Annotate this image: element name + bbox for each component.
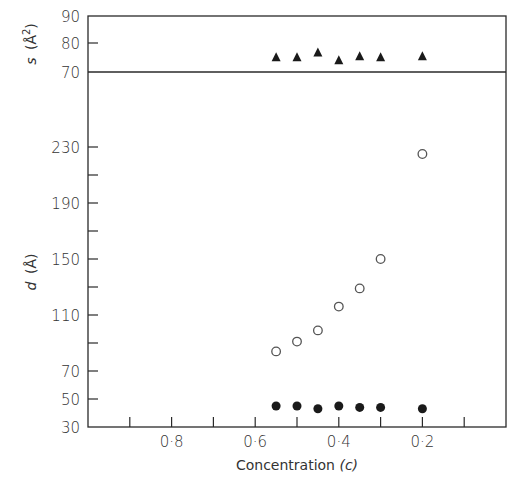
top-ylabel-var: s	[23, 58, 39, 65]
filled-circle-point	[355, 403, 364, 412]
open-circle-point	[293, 337, 302, 346]
open-circle-point	[376, 255, 385, 264]
bottom-tick-150: 150	[51, 251, 80, 269]
svg-text:d (Å): d (Å)	[23, 254, 39, 291]
plot-frame	[88, 16, 506, 427]
triangle-point	[293, 52, 302, 61]
bottom-tick-50: 50	[61, 391, 80, 409]
filled-circle-point	[418, 404, 427, 413]
top-y-axis-title: s (Å2)	[21, 23, 39, 65]
series-open-circles	[272, 150, 427, 356]
filled-circle-point	[293, 402, 302, 411]
x-axis-title: Concentration (c)	[236, 457, 358, 473]
top-y-axis: 90 80 70	[61, 8, 98, 82]
chart: 90 80 70 s (Å2) 305070110150190230 d (Å)…	[0, 0, 515, 490]
triangle-point	[418, 51, 427, 60]
top-tick-90: 90	[61, 8, 80, 26]
triangle-point	[355, 51, 364, 60]
open-circle-point	[314, 326, 323, 335]
bottom-tick-70: 70	[61, 363, 80, 381]
svg-text:Concentration (c): Concentration (c)	[236, 457, 358, 473]
x-axis: 0·80·60·40·2	[130, 417, 464, 451]
bottom-tick-110: 110	[51, 307, 80, 325]
top-tick-70: 70	[61, 64, 80, 82]
open-circle-point	[418, 150, 427, 159]
triangle-point	[334, 55, 343, 64]
x-tick-label: 0·6	[243, 433, 267, 451]
triangle-point	[376, 52, 385, 61]
filled-circle-point	[376, 403, 385, 412]
series-filled-circles	[272, 402, 427, 414]
x-tick-label: 0·4	[327, 433, 351, 451]
filled-circle-point	[334, 402, 343, 411]
x-tick-label: 0·8	[160, 433, 184, 451]
open-circle-point	[335, 302, 344, 311]
filled-circle-point	[313, 404, 322, 413]
filled-circle-point	[272, 402, 281, 411]
open-circle-point	[355, 284, 364, 293]
series-triangles	[272, 47, 427, 64]
bottom-tick-230: 230	[51, 139, 80, 157]
open-circle-point	[272, 347, 281, 356]
triangle-point	[272, 52, 281, 61]
bottom-tick-190: 190	[51, 195, 80, 213]
x-tick-label: 0·2	[410, 433, 434, 451]
svg-text:s (Å2): s (Å2)	[21, 23, 39, 65]
bottom-y-axis: 305070110150190230	[51, 139, 98, 437]
bottom-y-axis-title: d (Å)	[23, 254, 39, 291]
triangle-point	[313, 47, 322, 56]
top-tick-80: 80	[61, 35, 80, 53]
bottom-tick-30: 30	[61, 419, 80, 437]
